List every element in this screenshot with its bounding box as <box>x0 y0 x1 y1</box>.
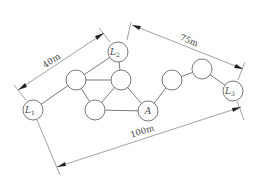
network-diagram: 40m 75m 100m L1 L2 A <box>0 0 257 184</box>
node-subscript: 1 <box>31 109 35 116</box>
node-subscript: 3 <box>231 90 235 97</box>
node-L2: L2 <box>108 42 128 62</box>
node-label: L <box>24 105 31 115</box>
dimension-75m: 75m <box>127 22 245 80</box>
dimension-line <box>18 33 104 90</box>
dimension-label-100m: 100m <box>129 123 155 140</box>
node-junction <box>85 100 105 120</box>
node-subscript: 2 <box>116 51 120 58</box>
node-L1: L1 <box>23 100 43 120</box>
extension-line <box>37 120 60 175</box>
node-label: A <box>144 106 152 116</box>
dimension-line <box>132 25 243 69</box>
node-junction <box>66 70 86 90</box>
dimension-label-75m: 75m <box>178 32 199 48</box>
extension-line <box>237 101 244 120</box>
node-L3: L3 <box>223 81 243 101</box>
extension-line <box>127 22 131 40</box>
node-label: L <box>109 47 116 57</box>
arrowhead-icon <box>232 107 241 112</box>
arrowhead-icon <box>234 64 243 69</box>
node-junction <box>111 70 131 90</box>
dimension-label-40m: 40m <box>41 51 62 70</box>
arrowhead-icon <box>57 162 66 167</box>
node-junction <box>192 59 212 79</box>
node-junction <box>162 70 182 90</box>
arrowhead-icon <box>18 83 27 90</box>
arrowhead-icon <box>95 33 104 40</box>
dimension-40m: 40m <box>14 28 110 100</box>
extension-line <box>238 62 245 80</box>
arrowhead-icon <box>132 25 141 30</box>
node-A: A <box>138 101 158 121</box>
node-label: L <box>224 86 231 96</box>
